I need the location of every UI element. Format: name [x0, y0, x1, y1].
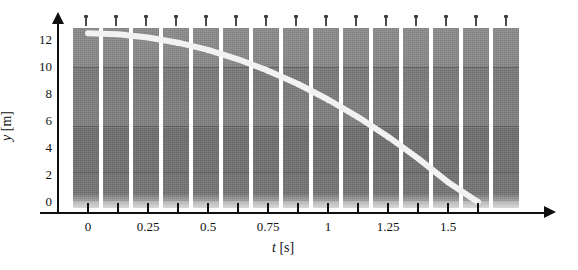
x-axis-tick [447, 203, 449, 214]
strobe-flash-marker-head [174, 15, 178, 18]
y-axis-symbol: y [0, 135, 14, 141]
strobe-flash-marker [505, 18, 507, 26]
y-axis-tick-label: 12 [26, 32, 52, 48]
photo-strip [73, 28, 99, 208]
x-axis-tick-label: 0.5 [200, 219, 216, 235]
x-axis-tick [87, 203, 89, 214]
ball-image [386, 135, 390, 140]
strobe-flash-marker-head [294, 15, 298, 18]
strobe-flash-marker [355, 18, 357, 26]
photo-strip [223, 28, 249, 208]
strobe-flash-marker-head [234, 15, 238, 18]
strobe-flash-marker [205, 18, 207, 26]
x-axis-tick-label: 0.25 [137, 219, 160, 235]
strobe-flash-marker-head [204, 15, 208, 18]
x-axis-tick [177, 203, 179, 214]
strobe-flash-marker-head [114, 15, 118, 18]
x-axis-tick [327, 203, 329, 214]
x-axis-tick [387, 203, 389, 214]
x-axis-arrow-icon [544, 206, 556, 218]
ball-image [296, 82, 300, 87]
x-axis-tick-label: 1.5 [440, 219, 456, 235]
photo-strip [133, 28, 159, 208]
x-axis-tick-label: 1.25 [377, 219, 400, 235]
photo-strip [253, 28, 279, 208]
photo-strip [313, 28, 339, 208]
y-axis-tick-label: 8 [26, 86, 52, 102]
y-axis-title: y [m] [0, 111, 15, 141]
x-axis-title: t [s] [272, 240, 294, 256]
strobe-flash-marker-head [384, 15, 388, 18]
strobe-flash-marker-head [474, 15, 478, 18]
strobe-flash-marker [85, 18, 87, 26]
x-axis-tick [357, 203, 359, 214]
x-axis-tick [237, 203, 239, 214]
photo-strip [493, 28, 519, 208]
strobe-flash-marker [295, 18, 297, 26]
strobe-flash-marker [235, 18, 237, 26]
ball-image [176, 41, 180, 46]
y-axis-tick-label: 10 [26, 59, 52, 75]
strobe-flash-marker [385, 18, 387, 26]
photo-strip [373, 28, 399, 208]
strobe-flash-marker-head [354, 15, 358, 18]
strobe-flash-marker-head [264, 15, 268, 18]
x-axis-tick [267, 203, 269, 214]
x-axis-tick-label: 1 [325, 219, 332, 235]
strobe-flash-marker-head [84, 15, 88, 18]
y-axis-tick-label: 2 [26, 167, 52, 183]
x-axis-line [40, 212, 546, 214]
strobe-flash-marker-head [504, 15, 508, 18]
x-axis-tick [147, 203, 149, 214]
ball-image [326, 98, 330, 103]
strobe-flash-marker-head [144, 15, 148, 18]
strobe-flash-marker [145, 18, 147, 26]
x-axis-tick [417, 203, 419, 214]
photo-strip [193, 28, 219, 208]
photo-strip [103, 28, 129, 208]
y-axis-tick-label: 4 [26, 140, 52, 156]
strobe-flash-marker [445, 18, 447, 26]
strobe-photo-graph-figure: 00.250.50.7511.251.5024681012 y [m] t [s… [0, 0, 578, 270]
y-axis-line [57, 22, 59, 214]
photo-strip [403, 28, 429, 208]
ball-image [266, 69, 270, 74]
strobe-flash-marker [265, 18, 267, 26]
x-axis-tick [117, 203, 119, 214]
x-axis-tick-label: 0.75 [257, 219, 280, 235]
strobe-flash-marker [175, 18, 177, 26]
y-axis-tick-label: 0 [26, 194, 52, 210]
x-axis-tick [477, 203, 479, 214]
strobe-flash-marker-head [444, 15, 448, 18]
strobe-flash-marker-head [324, 15, 328, 18]
photo-strip [283, 28, 309, 208]
x-axis-tick [207, 203, 209, 214]
y-axis-unit: [m] [0, 111, 14, 135]
strobe-flash-marker [415, 18, 417, 26]
y-axis-tick-label: 6 [26, 113, 52, 129]
x-axis-tick [297, 203, 299, 214]
strobe-flash-marker-head [414, 15, 418, 18]
strobe-flash-marker [475, 18, 477, 26]
strobe-flash-marker [325, 18, 327, 26]
x-axis-tick-label: 0 [85, 219, 92, 235]
y-axis-arrow-icon [52, 12, 64, 24]
strobe-flash-marker [115, 18, 117, 26]
photo-strip [163, 28, 189, 208]
photo-strip [463, 28, 489, 208]
ball-image [206, 48, 210, 53]
strobe-photo-montage [73, 28, 553, 208]
x-axis-unit: [s] [276, 240, 294, 255]
